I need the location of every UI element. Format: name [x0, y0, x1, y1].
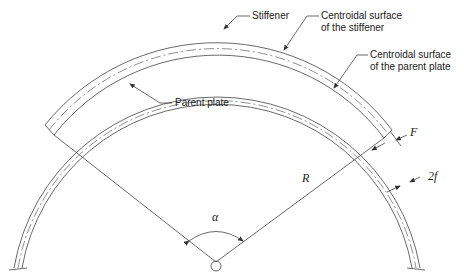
radius-line-R [216, 138, 384, 262]
label-angle: α [212, 212, 218, 223]
parent-plate-leader [130, 84, 172, 103]
label-2f: 2f [428, 171, 437, 182]
label-centroid-parent-2: of the parent plate [370, 61, 451, 72]
stiffener-leader [224, 16, 250, 29]
diagram-canvas [0, 0, 464, 277]
label-centroid-parent-1: Centroidal surface [370, 49, 451, 60]
centroid-stiffener-leader [284, 16, 319, 50]
centroid-parent-leader [334, 55, 368, 88]
angle-arc [189, 232, 243, 242]
label-F: F [410, 127, 417, 138]
label-parent-plate: Parent plate [175, 97, 229, 108]
center-circle [211, 261, 221, 271]
parent-plate [9, 97, 425, 270]
label-centroid-stiffener-1: Centroidal surface [321, 10, 402, 21]
label-stiffener: Stiffener [252, 10, 289, 21]
left-radius-line [54, 135, 216, 262]
label-centroid-stiffener-2: of the stiffener [321, 22, 384, 33]
label-radius: R [302, 173, 309, 184]
stiffener [45, 43, 392, 138]
